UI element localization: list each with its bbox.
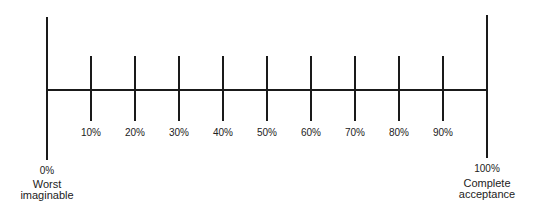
tick-mark <box>442 56 444 121</box>
left-end-caption-2: imaginable <box>7 190 87 201</box>
tick-mark <box>90 56 92 121</box>
tick-label: 90% <box>403 127 483 138</box>
right-end-marker <box>486 15 488 158</box>
tick-mark <box>222 56 224 121</box>
right-end-percent: 100% <box>447 163 527 174</box>
tick-mark <box>266 56 268 121</box>
tick-mark <box>310 56 312 121</box>
tick-mark <box>178 56 180 121</box>
right-end-caption-2: acceptance <box>447 189 527 200</box>
tick-mark <box>398 56 400 121</box>
left-end-percent: 0% <box>7 165 87 176</box>
left-end-marker <box>46 17 48 160</box>
tick-mark <box>134 56 136 121</box>
tick-mark <box>354 56 356 121</box>
